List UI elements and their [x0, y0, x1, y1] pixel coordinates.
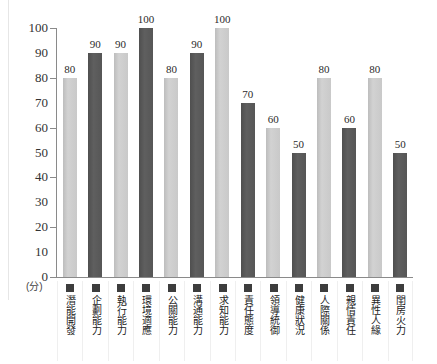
x-axis-category-label: 潛能開發	[57, 281, 82, 361]
unit-label: (分)	[26, 281, 43, 292]
y-axis-tick-label: 80	[14, 71, 48, 84]
bar-value-label: 90	[90, 39, 101, 50]
bar-slot: 90	[108, 28, 133, 277]
y-axis-tick-mark	[50, 128, 56, 129]
y-axis-tick-mark	[50, 177, 56, 178]
y-axis-tick-mark	[50, 78, 56, 79]
bar	[164, 78, 178, 277]
legend-square-icon	[142, 284, 150, 292]
legend-square-icon	[66, 284, 74, 292]
bar	[88, 53, 102, 277]
bar	[317, 78, 331, 277]
bar-value-label: 90	[115, 39, 126, 50]
category-label-text: 溝通能力	[192, 295, 203, 335]
x-axis-category-label: 企劃能力	[82, 281, 107, 361]
x-axis-category-label: 責任態度	[235, 281, 260, 361]
x-axis-category-label: 執行能力	[108, 281, 133, 361]
category-label-text: 執行能力	[116, 295, 127, 335]
y-axis-tick-label: 10	[14, 245, 48, 258]
bar-series: 809090100809010070605080608050	[57, 28, 413, 277]
bar-value-label: 60	[268, 114, 279, 125]
bar	[368, 78, 382, 277]
category-label-text: 公關能力	[166, 295, 177, 335]
category-label-text: 異性人緣	[370, 295, 381, 335]
bar-slot: 90	[184, 28, 209, 277]
bar-slot: 100	[210, 28, 235, 277]
bar	[266, 128, 280, 277]
bar-slot: 50	[286, 28, 311, 277]
bar	[393, 153, 407, 278]
legend-square-icon	[295, 284, 303, 292]
category-label-text: 健康狀況	[294, 295, 305, 335]
legend-square-icon	[117, 284, 125, 292]
y-axis-tick-label: 50	[14, 146, 48, 159]
bar	[63, 78, 77, 277]
y-axis-tick-label: 70	[14, 96, 48, 109]
bar	[139, 28, 153, 277]
bar-value-label: 80	[166, 64, 177, 75]
bar-value-label: 50	[395, 139, 406, 150]
category-label-text: 環境適應	[141, 295, 152, 335]
bar-value-label: 80	[369, 64, 380, 75]
bar	[241, 103, 255, 277]
category-label-text: 閨房火力	[395, 295, 406, 335]
y-axis-tick-labels: 1009080706050403020100	[8, 0, 48, 364]
x-axis-category-label: 異性人緣	[362, 281, 387, 361]
category-label-text: 人際關係	[319, 295, 330, 335]
y-axis-tick-label: 40	[14, 170, 48, 183]
legend-square-icon	[371, 284, 379, 292]
legend-square-icon	[168, 284, 176, 292]
x-axis-category-label: 求知能力	[210, 281, 235, 361]
bar-slot: 70	[235, 28, 260, 277]
bar	[190, 53, 204, 277]
bar	[342, 128, 356, 277]
bar	[292, 153, 306, 278]
legend-square-icon	[396, 284, 404, 292]
bar-value-label: 90	[191, 39, 202, 50]
bar-slot: 90	[82, 28, 107, 277]
bar-slot: 60	[337, 28, 362, 277]
x-axis-category-label: 領導統御	[260, 281, 285, 361]
x-axis-category-label: 人際關係	[311, 281, 336, 361]
bar-value-label: 80	[64, 64, 75, 75]
y-axis-tick-mark	[50, 28, 56, 29]
y-axis-tick-mark	[50, 227, 56, 228]
legend-square-icon	[320, 284, 328, 292]
category-label-text: 企劃能力	[90, 295, 101, 335]
x-axis-category-label: 閨房火力	[388, 281, 413, 361]
x-axis-category-label: 環境適應	[133, 281, 158, 361]
bar-chart: 1009080706050403020100 80909010080901007…	[0, 0, 437, 364]
x-axis-category-label: 公關能力	[159, 281, 184, 361]
bar-slot: 80	[57, 28, 82, 277]
y-axis-tick-label: 60	[14, 121, 48, 134]
bar-value-label: 60	[344, 114, 355, 125]
legend-square-icon	[92, 284, 100, 292]
category-label-text: 責任態度	[243, 295, 254, 335]
x-axis-line	[56, 277, 413, 278]
bar-slot: 100	[133, 28, 158, 277]
category-label-text: 親情責任	[344, 295, 355, 335]
bar	[215, 28, 229, 277]
category-label-text: 求知能力	[217, 295, 228, 335]
y-axis-tick-label: 30	[14, 195, 48, 208]
bar-value-label: 70	[242, 89, 253, 100]
legend-square-icon	[219, 284, 227, 292]
x-axis-category-label: 溝通能力	[184, 281, 209, 361]
y-axis-tick-label: 20	[14, 220, 48, 233]
bar-slot: 80	[159, 28, 184, 277]
bar-value-label: 80	[318, 64, 329, 75]
bar-slot: 80	[311, 28, 336, 277]
bar-slot: 60	[260, 28, 285, 277]
bar-slot: 50	[388, 28, 413, 277]
bar-value-label: 50	[293, 139, 304, 150]
category-label-text: 潛能開發	[65, 295, 76, 335]
legend-square-icon	[270, 284, 278, 292]
y-axis-tick-label: 90	[14, 46, 48, 59]
x-axis-category-label: 親情責任	[337, 281, 362, 361]
bar-slot: 80	[362, 28, 387, 277]
y-axis-tick-mark	[50, 277, 56, 278]
legend-square-icon	[193, 284, 201, 292]
x-axis-category-label: 健康狀況	[286, 281, 311, 361]
bar	[114, 53, 128, 277]
legend-square-icon	[244, 284, 252, 292]
